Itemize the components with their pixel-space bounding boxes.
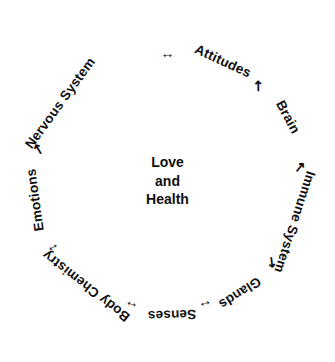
ring-label-emotions: Emotions (23, 167, 47, 232)
ring-label-body-chemistry: Body Chemistry (39, 247, 132, 324)
center-line-3: Health (146, 190, 189, 209)
arrow-brain-to-immune-system: ↖ (293, 160, 308, 173)
arrow-body-chemistry-to-senses: ↔ (123, 298, 140, 315)
center-line-1: Love (146, 153, 189, 172)
center-label: Love and Health (146, 153, 189, 209)
center-line-2: and (146, 172, 189, 191)
ring-label-glands: Glands (216, 273, 264, 311)
arrow-emotions-to-nervous-system: ↗ (30, 141, 46, 156)
ring-label-immune-system: Immune System (271, 170, 318, 276)
cycle-diagram: Love and Health AttitudesBrainImmune Sys… (0, 0, 335, 362)
ring-label-nervous-system: Nervous System (22, 54, 98, 151)
arrow-senses-to-glands: ↔ (197, 298, 214, 315)
ring-label-senses: Senses (148, 307, 197, 324)
arrow-nervous-system-to-attitudes: ↔ (161, 46, 175, 60)
arrow-attitudes-to-brain: ↖ (250, 77, 268, 95)
ring-label-brain: Brain (273, 98, 303, 136)
ring-label-attitudes: Attitudes (193, 42, 254, 81)
